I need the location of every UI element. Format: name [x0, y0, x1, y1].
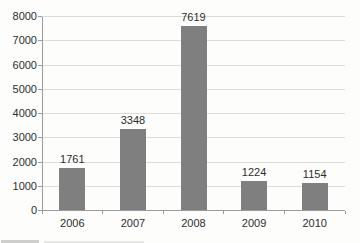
x-axis-label-2009: 2009 — [224, 217, 284, 229]
x-axis-tick-1 — [102, 211, 103, 214]
bar-2010 — [302, 183, 328, 211]
value-label-2008: 7619 — [164, 11, 224, 23]
y-axis-label-4000: 4000 — [0, 107, 37, 120]
x-axis-tick-2 — [163, 211, 164, 214]
x-axis-tick-0 — [42, 211, 43, 214]
y-axis-line — [42, 17, 43, 214]
y-axis-label-3000: 3000 — [0, 131, 37, 144]
y-axis-label-1000: 1000 — [0, 180, 37, 193]
x-axis-label-2010: 2010 — [285, 217, 345, 229]
value-label-2010: 1154 — [285, 168, 345, 180]
x-axis-label-2008: 2008 — [164, 217, 224, 229]
value-label-2009: 1224 — [224, 166, 284, 178]
y-axis-label-2000: 2000 — [0, 156, 37, 169]
x-axis-tick-5 — [345, 211, 346, 214]
y-axis-label-0: 0 — [0, 204, 37, 217]
bar-2007 — [120, 129, 146, 210]
bar-2008 — [181, 26, 207, 211]
y-axis-label-8000: 8000 — [0, 10, 37, 23]
plot-area: 0100020003000400050006000700080001761200… — [0, 0, 360, 243]
x-axis-tick-4 — [284, 211, 285, 214]
y-axis-label-7000: 7000 — [0, 34, 37, 47]
bar-2009 — [241, 181, 267, 211]
y-axis-label-5000: 5000 — [0, 83, 37, 96]
bar-2006 — [59, 168, 85, 211]
value-label-2006: 1761 — [42, 153, 102, 165]
value-label-2007: 3348 — [103, 114, 163, 126]
y-axis-label-6000: 6000 — [0, 59, 37, 72]
x-axis-label-2006: 2006 — [42, 217, 102, 229]
bar-chart-figure: 0100020003000400050006000700080001761200… — [0, 0, 360, 243]
x-axis-label-2007: 2007 — [103, 217, 163, 229]
x-axis-tick-3 — [223, 211, 224, 214]
